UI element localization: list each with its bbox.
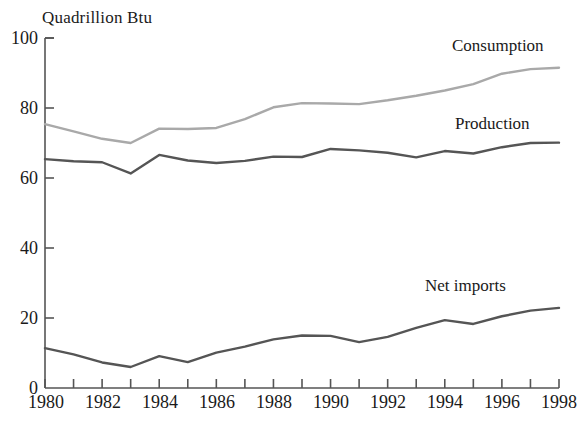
series-line-consumption: [45, 68, 559, 143]
plot-area: [0, 0, 582, 422]
series-line-net-imports: [45, 308, 559, 367]
data-lines: [45, 68, 559, 367]
chart-figure: Quadrillion Btu 100 80 60 40 20 0 1980 1…: [0, 0, 582, 422]
series-line-production: [45, 143, 559, 174]
